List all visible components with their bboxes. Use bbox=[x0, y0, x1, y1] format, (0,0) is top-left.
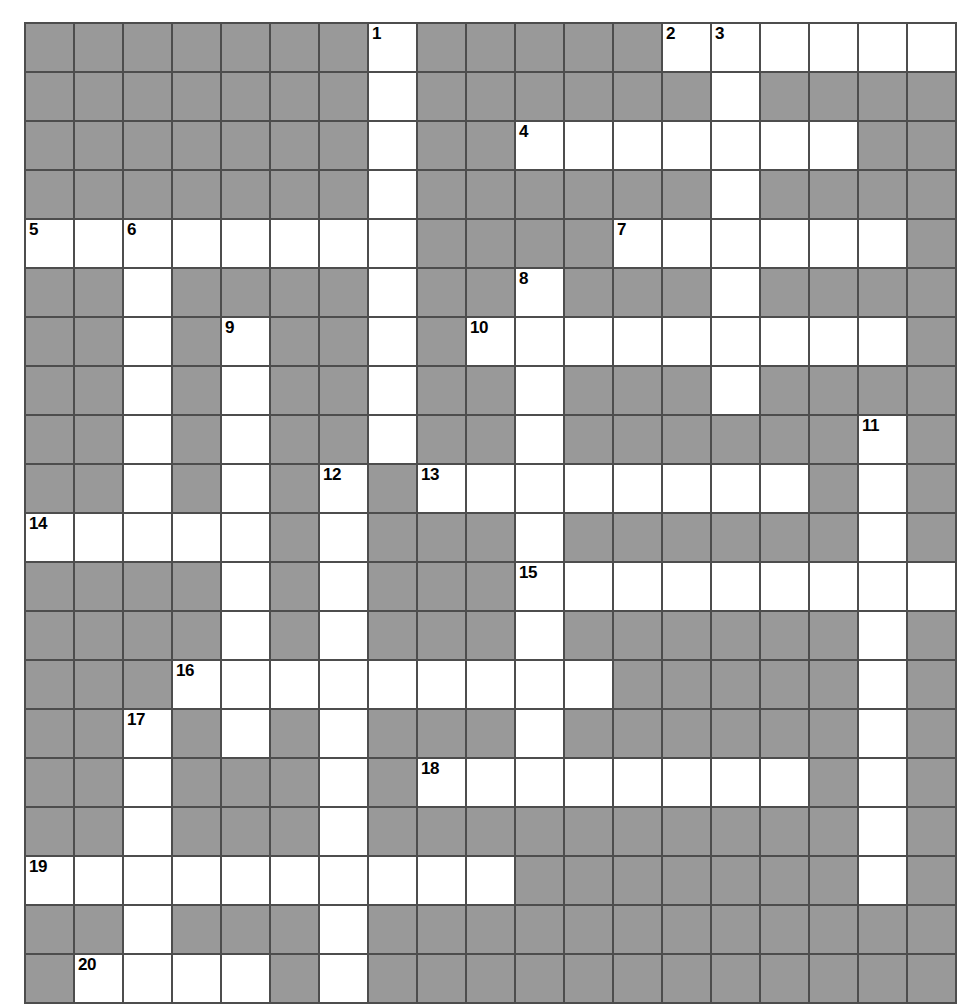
crossword-open-cell[interactable]: 18 bbox=[418, 759, 467, 808]
crossword-open-cell[interactable] bbox=[565, 318, 614, 367]
crossword-open-cell[interactable] bbox=[124, 906, 173, 955]
crossword-open-cell[interactable] bbox=[173, 514, 222, 563]
crossword-open-cell[interactable] bbox=[663, 759, 712, 808]
crossword-open-cell[interactable] bbox=[565, 563, 614, 612]
crossword-open-cell[interactable] bbox=[369, 220, 418, 269]
crossword-open-cell[interactable] bbox=[467, 759, 516, 808]
crossword-open-cell[interactable] bbox=[859, 612, 908, 661]
crossword-open-cell[interactable] bbox=[369, 416, 418, 465]
crossword-open-cell[interactable] bbox=[908, 563, 957, 612]
crossword-open-cell[interactable]: 8 bbox=[516, 269, 565, 318]
crossword-open-cell[interactable] bbox=[124, 759, 173, 808]
crossword-open-cell[interactable] bbox=[565, 465, 614, 514]
crossword-open-cell[interactable] bbox=[810, 220, 859, 269]
crossword-open-cell[interactable] bbox=[761, 318, 810, 367]
crossword-open-cell[interactable] bbox=[859, 563, 908, 612]
crossword-open-cell[interactable] bbox=[859, 514, 908, 563]
crossword-open-cell[interactable]: 4 bbox=[516, 122, 565, 171]
crossword-open-cell[interactable]: 20 bbox=[75, 955, 124, 1004]
crossword-open-cell[interactable] bbox=[712, 171, 761, 220]
crossword-open-cell[interactable] bbox=[320, 514, 369, 563]
crossword-open-cell[interactable] bbox=[761, 563, 810, 612]
crossword-open-cell[interactable] bbox=[761, 122, 810, 171]
crossword-open-cell[interactable] bbox=[320, 563, 369, 612]
crossword-open-cell[interactable] bbox=[173, 220, 222, 269]
crossword-open-cell[interactable] bbox=[859, 710, 908, 759]
crossword-open-cell[interactable]: 13 bbox=[418, 465, 467, 514]
crossword-open-cell[interactable] bbox=[320, 661, 369, 710]
crossword-open-cell[interactable] bbox=[712, 465, 761, 514]
crossword-open-cell[interactable]: 2 bbox=[663, 24, 712, 73]
crossword-open-cell[interactable] bbox=[173, 857, 222, 906]
crossword-open-cell[interactable] bbox=[222, 367, 271, 416]
crossword-open-cell[interactable] bbox=[467, 661, 516, 710]
crossword-open-cell[interactable] bbox=[222, 416, 271, 465]
crossword-open-cell[interactable] bbox=[222, 661, 271, 710]
crossword-open-cell[interactable] bbox=[369, 171, 418, 220]
crossword-open-cell[interactable] bbox=[124, 465, 173, 514]
crossword-open-cell[interactable] bbox=[614, 318, 663, 367]
crossword-open-cell[interactable] bbox=[320, 906, 369, 955]
crossword-open-cell[interactable] bbox=[369, 857, 418, 906]
crossword-open-cell[interactable] bbox=[712, 122, 761, 171]
crossword-open-cell[interactable] bbox=[516, 612, 565, 661]
crossword-open-cell[interactable] bbox=[75, 514, 124, 563]
crossword-open-cell[interactable] bbox=[810, 122, 859, 171]
crossword-open-cell[interactable] bbox=[320, 808, 369, 857]
crossword-open-cell[interactable] bbox=[761, 220, 810, 269]
crossword-open-cell[interactable] bbox=[810, 24, 859, 73]
crossword-open-cell[interactable] bbox=[908, 24, 957, 73]
crossword-open-cell[interactable] bbox=[516, 514, 565, 563]
crossword-open-cell[interactable] bbox=[124, 808, 173, 857]
crossword-open-cell[interactable] bbox=[614, 122, 663, 171]
crossword-open-cell[interactable] bbox=[859, 465, 908, 514]
crossword-open-cell[interactable] bbox=[320, 710, 369, 759]
crossword-open-cell[interactable] bbox=[859, 24, 908, 73]
crossword-open-cell[interactable] bbox=[467, 465, 516, 514]
crossword-grid[interactable]: 1234567891011121314151617181920 bbox=[24, 22, 957, 1004]
crossword-open-cell[interactable] bbox=[565, 759, 614, 808]
crossword-open-cell[interactable] bbox=[369, 269, 418, 318]
crossword-open-cell[interactable] bbox=[712, 73, 761, 122]
crossword-open-cell[interactable] bbox=[124, 367, 173, 416]
crossword-open-cell[interactable] bbox=[712, 367, 761, 416]
crossword-open-cell[interactable]: 15 bbox=[516, 563, 565, 612]
crossword-open-cell[interactable]: 14 bbox=[26, 514, 75, 563]
crossword-open-cell[interactable] bbox=[761, 465, 810, 514]
crossword-open-cell[interactable] bbox=[565, 661, 614, 710]
crossword-open-cell[interactable] bbox=[222, 220, 271, 269]
crossword-open-cell[interactable] bbox=[859, 808, 908, 857]
crossword-open-cell[interactable] bbox=[663, 122, 712, 171]
crossword-open-cell[interactable] bbox=[810, 318, 859, 367]
crossword-open-cell[interactable] bbox=[369, 122, 418, 171]
crossword-open-cell[interactable] bbox=[320, 857, 369, 906]
crossword-open-cell[interactable] bbox=[222, 955, 271, 1004]
crossword-open-cell[interactable] bbox=[124, 416, 173, 465]
crossword-open-cell[interactable] bbox=[516, 710, 565, 759]
crossword-open-cell[interactable] bbox=[859, 318, 908, 367]
crossword-open-cell[interactable] bbox=[222, 710, 271, 759]
crossword-open-cell[interactable] bbox=[222, 563, 271, 612]
crossword-open-cell[interactable] bbox=[712, 269, 761, 318]
crossword-open-cell[interactable] bbox=[516, 661, 565, 710]
crossword-open-cell[interactable]: 16 bbox=[173, 661, 222, 710]
crossword-open-cell[interactable] bbox=[614, 759, 663, 808]
crossword-open-cell[interactable] bbox=[761, 759, 810, 808]
crossword-open-cell[interactable] bbox=[663, 465, 712, 514]
crossword-open-cell[interactable] bbox=[761, 24, 810, 73]
crossword-open-cell[interactable] bbox=[369, 661, 418, 710]
crossword-open-cell[interactable] bbox=[810, 563, 859, 612]
crossword-open-cell[interactable] bbox=[516, 759, 565, 808]
crossword-open-cell[interactable] bbox=[124, 955, 173, 1004]
crossword-open-cell[interactable] bbox=[418, 857, 467, 906]
crossword-open-cell[interactable] bbox=[859, 759, 908, 808]
crossword-open-cell[interactable] bbox=[418, 661, 467, 710]
crossword-open-cell[interactable] bbox=[516, 416, 565, 465]
crossword-open-cell[interactable] bbox=[222, 514, 271, 563]
crossword-open-cell[interactable] bbox=[516, 318, 565, 367]
crossword-open-cell[interactable] bbox=[222, 465, 271, 514]
crossword-open-cell[interactable] bbox=[369, 318, 418, 367]
crossword-open-cell[interactable]: 7 bbox=[614, 220, 663, 269]
crossword-open-cell[interactable] bbox=[271, 661, 320, 710]
crossword-open-cell[interactable] bbox=[516, 465, 565, 514]
